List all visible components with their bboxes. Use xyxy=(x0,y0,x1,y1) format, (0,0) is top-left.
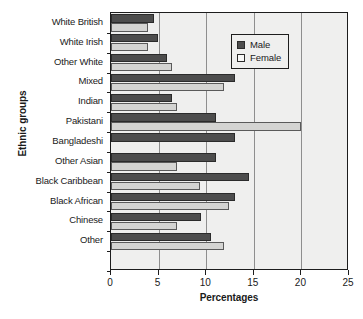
x-axis-tick-label: 5 xyxy=(146,277,170,288)
x-axis-tick xyxy=(253,270,254,275)
bar-female xyxy=(111,242,224,250)
x-axis-tick-label: 20 xyxy=(288,277,312,288)
category-label: Other xyxy=(80,235,103,245)
bar-female xyxy=(111,162,177,170)
category-label: Other Asian xyxy=(55,156,103,166)
x-axis-tick xyxy=(348,270,349,275)
category-label: Mixed xyxy=(78,76,103,86)
legend-item: Female xyxy=(237,51,281,64)
category-label: Black Caribbean xyxy=(36,176,103,186)
x-axis-tick-label: 0 xyxy=(98,277,122,288)
bar-female xyxy=(111,23,148,31)
bar-male xyxy=(111,133,235,141)
bar-male xyxy=(111,153,216,161)
category-label: White Irish xyxy=(60,37,103,47)
legend-swatch-female-icon xyxy=(237,54,245,62)
bar-chart: Ethnic groups White BritishWhite IrishOt… xyxy=(0,0,363,319)
x-axis-tick xyxy=(110,270,111,275)
bar-male xyxy=(111,34,158,42)
category-label: Black African xyxy=(50,196,103,206)
bar-male xyxy=(111,54,167,62)
legend-label: Male xyxy=(250,39,270,50)
category-label: Chinese xyxy=(69,215,103,225)
category-label-column: White BritishWhite IrishOther WhiteMixed… xyxy=(14,12,106,270)
category-label: Other White xyxy=(54,57,103,67)
category-label: Bangladeshi xyxy=(52,136,103,146)
bar-female xyxy=(111,83,224,91)
x-axis-tick xyxy=(205,270,206,275)
category-label: White British xyxy=(52,17,103,27)
chart-legend: MaleFemale xyxy=(231,34,289,69)
y-axis-tick xyxy=(107,251,111,252)
x-axis-tick-label: 10 xyxy=(193,277,217,288)
bar-female xyxy=(111,122,301,130)
x-axis-tick xyxy=(158,270,159,275)
bar-male xyxy=(111,113,216,121)
bar-male xyxy=(111,213,201,221)
bar-male xyxy=(111,233,211,241)
category-label: Pakistani xyxy=(66,116,103,126)
category-label: Indian xyxy=(78,96,103,106)
x-axis-tick-label: 25 xyxy=(336,277,360,288)
bar-female xyxy=(111,103,177,111)
bar-female xyxy=(111,222,177,230)
bar-female xyxy=(111,182,200,190)
bar-male xyxy=(111,74,235,82)
x-axis-tick-label: 15 xyxy=(241,277,265,288)
x-axis-title: Percentages xyxy=(110,292,348,303)
legend-swatch-male-icon xyxy=(237,41,245,49)
legend-label: Female xyxy=(250,52,281,63)
bar-male xyxy=(111,94,172,102)
bar-female xyxy=(111,43,148,51)
bar-male xyxy=(111,14,154,22)
x-axis-tick xyxy=(300,270,301,275)
gridline xyxy=(301,13,302,269)
bar-female xyxy=(111,202,229,210)
bar-male xyxy=(111,193,235,201)
bar-male xyxy=(111,173,249,181)
legend-item: Male xyxy=(237,38,281,51)
plot-area xyxy=(110,12,348,270)
bar-female xyxy=(111,63,172,71)
